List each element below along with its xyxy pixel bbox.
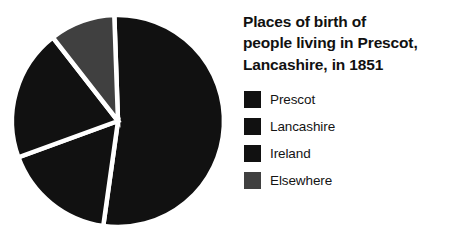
- legend-item-elsewhere: Elsewhere: [244, 167, 444, 194]
- legend-item-label: Lancashire: [270, 120, 335, 134]
- legend-item-label: Ireland: [270, 147, 311, 161]
- legend-item-label: Elsewhere: [270, 174, 332, 188]
- legend-swatch-icon: [244, 91, 261, 108]
- legend-item-label: Prescot: [270, 93, 315, 107]
- legend-swatch-icon: [244, 118, 261, 135]
- pie-chart-figure: Places of birth of people living in Pres…: [0, 0, 454, 233]
- chart-legend: Prescot Lancashire Ireland Elsewhere: [244, 86, 444, 194]
- legend-item-prescot: Prescot: [244, 86, 444, 113]
- pie-chart-svg: [0, 0, 238, 233]
- legend-swatch-icon: [244, 145, 261, 162]
- pie-slice-group: [12, 15, 224, 227]
- legend-item-lancashire: Lancashire: [244, 113, 444, 140]
- legend-swatch-icon: [244, 172, 261, 189]
- legend-item-ireland: Ireland: [244, 140, 444, 167]
- pie-slice-prescot: [103, 15, 224, 227]
- chart-title: Places of birth of people living in Pres…: [243, 11, 448, 75]
- chart-info-panel: Places of birth of people living in Pres…: [243, 0, 454, 233]
- pie-chart-area: [0, 0, 238, 233]
